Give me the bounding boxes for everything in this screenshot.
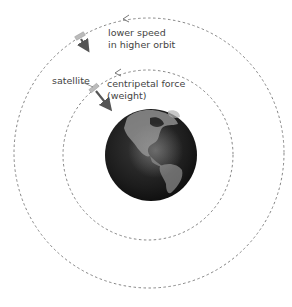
centripetal-force-label: centripetal force (weight) [107, 78, 185, 102]
outer-orbit-direction-icon [123, 15, 129, 22]
satellite-label: satellite [52, 75, 90, 87]
centripetal-force-label-line1: centripetal force [107, 78, 185, 90]
centripetal-force-label-line2: (weight) [107, 90, 185, 102]
outer-orbit-label: lower speed in higher orbit [108, 27, 175, 51]
outer-orbit-label-line1: lower speed [108, 27, 175, 39]
earth [105, 109, 197, 201]
outer-orbit-label-line2: in higher orbit [108, 39, 175, 51]
outer-satellite [75, 32, 86, 40]
outer-force-arrow [81, 39, 86, 47]
